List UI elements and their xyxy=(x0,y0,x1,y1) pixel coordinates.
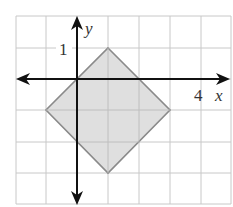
x-axis-label: x xyxy=(214,86,223,105)
y-axis-label: y xyxy=(83,19,93,38)
coordinate-plane: 1 y 4 x xyxy=(0,0,233,207)
y-tick-label: 1 xyxy=(59,40,68,59)
x-tick-label: 4 xyxy=(194,86,203,105)
